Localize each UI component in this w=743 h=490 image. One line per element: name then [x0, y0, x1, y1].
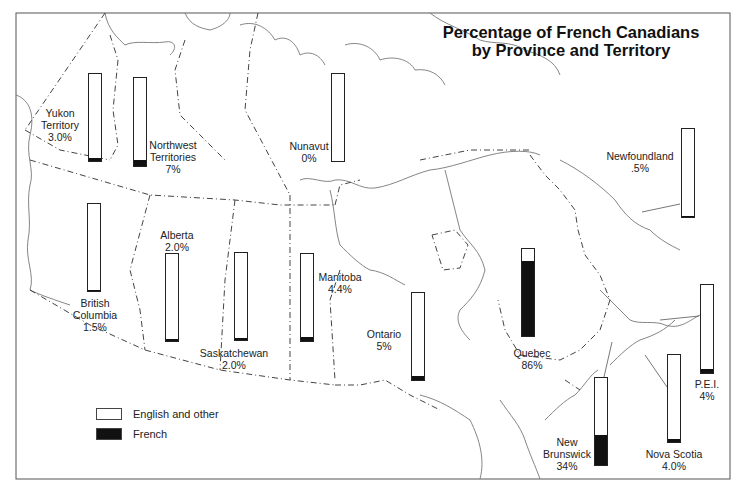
region-value: 34% — [543, 460, 591, 472]
region-name: Newfoundland — [606, 150, 673, 162]
bar-yukon-territory — [88, 73, 102, 162]
region-name: Brunswick — [543, 448, 591, 460]
chart-canvas: Percentage of French Canadians by Provin… — [0, 0, 743, 490]
bar-french-segment — [89, 158, 101, 161]
label-yukon-territory: YukonTerritory3.0% — [41, 107, 79, 143]
bar-new-brunswick — [594, 377, 608, 466]
legend-label-english: English and other — [133, 408, 219, 420]
label-northwest-territories: NorthwestTerritories7% — [149, 139, 196, 175]
bar-p-e-i — [700, 284, 714, 374]
legend-item-french: French — [96, 424, 219, 444]
label-newfoundland: Newfoundland.5% — [606, 150, 673, 174]
bar-french-segment — [235, 338, 247, 340]
bar-alberta — [165, 253, 179, 342]
bar-french-segment — [522, 261, 534, 336]
region-value: 4.4% — [318, 283, 361, 295]
region-value: 1.5% — [73, 321, 117, 333]
bar-quebec — [521, 248, 535, 337]
bar-british-columbia — [87, 203, 101, 292]
region-value: 7% — [149, 163, 196, 175]
label-p-e-i: P.E.I.4% — [695, 378, 719, 402]
bar-french-segment — [668, 439, 680, 442]
region-name: British — [73, 297, 117, 309]
label-manitoba: Manitoba4.4% — [318, 271, 361, 295]
bar-manitoba — [300, 253, 314, 342]
region-value: 0% — [289, 152, 328, 164]
legend-label-french: French — [133, 428, 167, 440]
region-value: 4.0% — [646, 460, 703, 472]
label-nova-scotia: Nova Scotia4.0% — [646, 448, 703, 472]
region-name: New — [543, 436, 591, 448]
bar-french-segment — [682, 216, 694, 218]
region-name: Columbia — [73, 309, 117, 321]
bar-northwest-territories — [133, 77, 147, 167]
label-new-brunswick: NewBrunswick34% — [543, 436, 591, 472]
chart-title: Percentage of French Canadians by Provin… — [421, 23, 721, 59]
bar-french-segment — [412, 376, 424, 380]
bar-newfoundland — [681, 128, 695, 218]
label-nunavut: Nunavut0% — [289, 140, 328, 164]
region-name: Quebec — [514, 347, 551, 359]
bar-ontario — [411, 292, 425, 381]
bar-french-segment — [166, 339, 178, 341]
label-saskatchewan: Saskatchewan2.0% — [200, 347, 268, 371]
chart-title-line-2: by Province and Territory — [421, 41, 721, 59]
bar-french-segment — [701, 369, 713, 373]
region-name: Nova Scotia — [646, 448, 703, 460]
region-name: Saskatchewan — [200, 347, 268, 359]
bar-french-segment — [134, 160, 146, 166]
region-value: 4% — [695, 390, 719, 402]
bar-french-segment — [301, 337, 313, 341]
bar-saskatchewan — [234, 252, 248, 341]
bar-nunavut — [331, 73, 345, 162]
region-value: 2.0% — [160, 241, 193, 253]
region-name: Yukon — [41, 107, 79, 119]
region-value: .5% — [606, 162, 673, 174]
region-value: 5% — [367, 340, 401, 352]
region-name: Territory — [41, 119, 79, 131]
bar-french-segment — [88, 290, 100, 292]
label-british-columbia: BritishColumbia1.5% — [73, 297, 117, 333]
region-value: 86% — [514, 359, 551, 371]
region-name: Manitoba — [318, 271, 361, 283]
region-name: Northwest — [149, 139, 196, 151]
region-value: 2.0% — [200, 359, 268, 371]
legend-swatch-french — [96, 428, 122, 440]
bar-nova-scotia — [667, 354, 681, 443]
label-alberta: Alberta2.0% — [160, 229, 193, 253]
region-name: Territories — [149, 151, 196, 163]
label-quebec: Quebec86% — [514, 347, 551, 371]
legend-item-english: English and other — [96, 404, 219, 424]
bar-french-segment — [595, 435, 607, 465]
chart-title-line-1: Percentage of French Canadians — [421, 23, 721, 41]
region-name: Alberta — [160, 229, 193, 241]
legend-swatch-english — [96, 408, 122, 420]
region-name: P.E.I. — [695, 378, 719, 390]
region-name: Ontario — [367, 328, 401, 340]
label-ontario: Ontario5% — [367, 328, 401, 352]
region-value: 3.0% — [41, 131, 79, 143]
legend: English and other French — [96, 404, 219, 444]
region-name: Nunavut — [289, 140, 328, 152]
